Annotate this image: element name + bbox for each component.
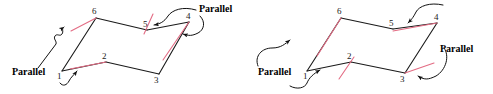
- arrow-to-edge-1-6: [257, 40, 290, 66]
- left-black-edges: [62, 18, 189, 74]
- right-red-edges: [317, 18, 437, 79]
- edge-5-4: [147, 22, 189, 30]
- vertex-label-6: 6: [337, 6, 342, 16]
- vertex-label-4: 4: [434, 12, 439, 22]
- arrow-to-edge-1-2: [60, 71, 77, 85]
- edge-6-5: [341, 18, 393, 29]
- red-segment-near-3: [405, 63, 434, 73]
- vertex-label-2: 2: [347, 51, 352, 61]
- edge-1-2: [307, 62, 351, 71]
- right-parallel-diagram: 1 2 3 4 5 6 Parallel Parallel: [257, 4, 474, 88]
- vertex-label-4: 4: [186, 11, 191, 21]
- arrow-to-edge-1-6: [38, 27, 64, 68]
- edge-3-4: [405, 23, 437, 73]
- parallel-label-left: Parallel: [12, 66, 46, 77]
- red-segment-near-6: [317, 18, 341, 56]
- vertex-label-5: 5: [389, 18, 394, 28]
- figure-root: 1 2 3 4 5 6 Parallel Parallel: [0, 0, 493, 94]
- parallel-label-top-right: Parallel: [199, 3, 233, 14]
- edge-2-3: [106, 62, 159, 74]
- parallel-label-left: Parallel: [258, 66, 292, 77]
- parallel-diagram-svg: 1 2 3 4 5 6 Parallel Parallel: [0, 0, 493, 94]
- parallel-label-right: Parallel: [440, 43, 474, 54]
- red-segment-near-5-4: [393, 23, 437, 31]
- edge-1-6: [62, 18, 96, 71]
- vertex-label-3: 3: [154, 75, 159, 85]
- vertex-label-5: 5: [143, 19, 148, 29]
- left-annotation-arrows: [38, 8, 204, 85]
- red-segment-near-2: [70, 62, 106, 69]
- vertex-label-3: 3: [400, 74, 405, 84]
- edge-3-4: [159, 22, 189, 74]
- vertex-label-6: 6: [92, 6, 97, 16]
- vertex-label-1: 1: [57, 71, 62, 81]
- edge-2-3: [351, 62, 405, 73]
- edge-6-5: [96, 18, 147, 30]
- left-vertex-labels: 1 2 3 4 5 6: [57, 6, 191, 85]
- left-parallel-diagram: 1 2 3 4 5 6 Parallel Parallel: [12, 3, 233, 85]
- vertex-label-1: 1: [303, 71, 308, 81]
- vertex-label-2: 2: [102, 51, 107, 61]
- red-segment-near-4: [163, 22, 189, 60]
- left-red-edges: [70, 14, 189, 69]
